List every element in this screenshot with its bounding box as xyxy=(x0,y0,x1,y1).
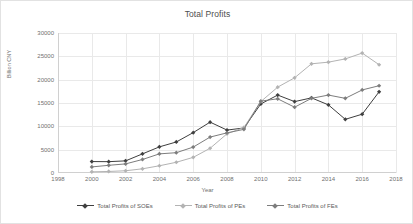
x-axis-tick-label: 2016 xyxy=(356,176,369,182)
y-axis-tick-label: 15000 xyxy=(37,100,54,106)
series-0 xyxy=(90,90,382,164)
x-axis-tick-labels: 1998200020022004200620082010201220142016… xyxy=(58,176,396,186)
x-axis-tick-label: 2002 xyxy=(119,176,132,182)
data-point-marker xyxy=(107,169,111,173)
data-point-marker xyxy=(107,160,111,164)
data-point-marker xyxy=(309,96,313,100)
data-point-marker xyxy=(326,93,330,97)
x-axis-tick-label: 2008 xyxy=(220,176,233,182)
legend-item-label: Total Profits of PEs xyxy=(195,203,246,209)
legend-marker-icon xyxy=(267,202,284,209)
data-point-marker xyxy=(360,88,364,92)
y-axis-tick-label: 10000 xyxy=(37,123,54,129)
data-point-marker xyxy=(276,93,280,97)
x-axis-tick-label: 2018 xyxy=(389,176,402,182)
x-axis-tick-label: 2014 xyxy=(322,176,335,182)
y-axis-title: Billion CNY xyxy=(6,34,12,94)
data-point-marker xyxy=(276,97,280,101)
data-point-marker xyxy=(377,84,381,88)
data-point-marker xyxy=(293,100,297,104)
y-axis-tick-label: 25000 xyxy=(37,53,54,59)
y-axis-tick-label: 30000 xyxy=(37,30,54,36)
series-2 xyxy=(90,84,382,169)
legend-item-0[interactable]: Total Profits of SOEs xyxy=(77,202,152,209)
x-axis-tick-label: 2000 xyxy=(85,176,98,182)
data-point-marker xyxy=(343,57,347,61)
data-point-marker xyxy=(208,135,212,139)
data-point-marker xyxy=(90,170,94,174)
data-point-marker xyxy=(90,165,94,169)
data-point-marker xyxy=(343,96,347,100)
chart-container: Total Profits 05000100001500020000250003… xyxy=(0,0,413,224)
legend-item-1[interactable]: Total Profits of PEs xyxy=(175,202,246,209)
series-line xyxy=(92,53,379,172)
data-point-marker xyxy=(174,140,178,144)
y-axis-tick-label: 20000 xyxy=(37,77,54,83)
x-axis-tick-label: 1998 xyxy=(51,176,64,182)
data-point-marker xyxy=(124,169,128,173)
data-point-marker xyxy=(140,157,144,161)
x-axis-title: Year xyxy=(1,187,413,193)
series-line xyxy=(92,86,379,167)
plot-area xyxy=(58,33,396,173)
data-point-marker xyxy=(124,162,128,166)
y-axis-tick-labels: 050001000015000200002500030000 xyxy=(15,33,54,173)
legend-marker-icon xyxy=(175,202,192,209)
legend-item-label: Total Profits of FEs xyxy=(287,203,337,209)
data-point-marker xyxy=(326,60,330,64)
data-point-marker xyxy=(157,164,161,168)
gridline-vertical xyxy=(396,33,397,173)
series-line xyxy=(92,92,379,162)
chart-title: Total Profits xyxy=(1,9,413,19)
data-point-marker xyxy=(174,151,178,155)
chart-legend: Total Profits of SOEsTotal Profits of PE… xyxy=(1,202,413,209)
data-point-marker xyxy=(191,145,195,149)
data-point-marker xyxy=(107,163,111,167)
data-point-marker xyxy=(174,160,178,164)
data-point-marker xyxy=(157,152,161,156)
data-point-marker xyxy=(140,167,144,171)
x-axis-tick-label: 2012 xyxy=(288,176,301,182)
data-point-marker xyxy=(191,155,195,159)
data-point-marker xyxy=(293,105,297,109)
data-point-marker xyxy=(140,152,144,156)
x-axis-tick-label: 2004 xyxy=(153,176,166,182)
x-axis-tick-label: 2010 xyxy=(254,176,267,182)
legend-item-label: Total Profits of SOEs xyxy=(97,203,152,209)
data-point-marker xyxy=(90,159,94,163)
legend-item-2[interactable]: Total Profits of FEs xyxy=(267,202,337,209)
y-axis-tick-label: 5000 xyxy=(41,147,54,153)
series-lines-layer xyxy=(58,33,396,173)
x-axis-tick-label: 2006 xyxy=(187,176,200,182)
data-point-marker xyxy=(157,145,161,149)
legend-marker-icon xyxy=(77,202,94,209)
